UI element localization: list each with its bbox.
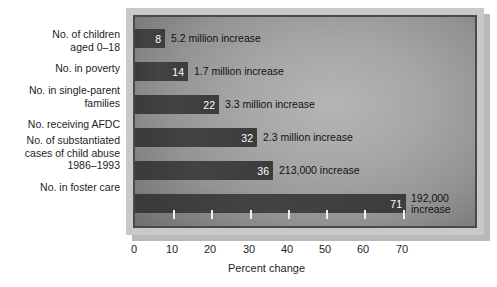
x-tick-label: 30 (243, 243, 255, 255)
axis-tick (288, 210, 290, 219)
bar-value-label: 8 (155, 33, 161, 44)
bar-row: 22 3.3 million increase (135, 95, 475, 114)
x-tick-label: 40 (281, 243, 293, 255)
bar: 36 (135, 161, 273, 180)
category-label: No. of substantiated cases of child abus… (25, 134, 120, 172)
category-label: No. in single-parent families (29, 84, 120, 109)
x-tick-label: 50 (319, 243, 331, 255)
chart-screenshot: No. of children aged 0–18 No. in poverty… (0, 0, 497, 287)
category-label: No. in poverty (55, 62, 120, 75)
axis-tick (403, 210, 405, 219)
bar-row: 32 2.3 million increase (135, 128, 475, 147)
axis-tick (326, 210, 328, 219)
bar-annotation: 3.3 million increase (225, 99, 315, 111)
bar-annotation: 213,000 increase (279, 165, 360, 177)
x-tick-label: 60 (357, 243, 369, 255)
x-tick-label: 10 (166, 243, 178, 255)
x-axis-tick-strip (135, 208, 475, 226)
category-axis-labels: No. of children aged 0–18 No. in poverty… (0, 18, 126, 223)
x-tick-label: 0 (131, 243, 137, 255)
bar: 8 (135, 29, 165, 48)
bar-value-label: 32 (241, 132, 253, 143)
bar: 14 (135, 62, 188, 81)
x-axis-title-text: Percent change (228, 262, 305, 274)
category-label: No. receiving AFDC (28, 118, 120, 131)
bar-annotation: 1.7 million increase (194, 66, 284, 78)
axis-tick (211, 210, 213, 219)
bar: 32 (135, 128, 257, 147)
bar: 22 (135, 95, 219, 114)
x-axis-labels: 0 10 20 30 40 50 60 70 (0, 243, 497, 259)
x-tick-label: 70 (396, 243, 408, 255)
bar-annotation: 5.2 million increase (171, 33, 261, 45)
category-label: No. of children aged 0–18 (52, 28, 120, 53)
axis-tick (250, 210, 252, 219)
axis-tick (364, 210, 366, 219)
bar-value-label: 36 (257, 165, 269, 176)
bar-row: 8 5.2 million increase (135, 29, 475, 48)
axis-tick (173, 210, 175, 219)
x-axis-title: Percent change (0, 262, 497, 274)
bar-value-label: 14 (172, 66, 184, 77)
bar-row: 36 213,000 increase (135, 161, 475, 180)
bar-annotation: 2.3 million increase (263, 132, 353, 144)
bar-row: 14 1.7 million increase (135, 62, 475, 81)
bar-value-label: 22 (203, 99, 215, 110)
x-tick-label: 20 (204, 243, 216, 255)
category-label: No. in foster care (40, 181, 120, 194)
plot-area: 8 5.2 million increase 14 1.7 million in… (133, 15, 477, 228)
